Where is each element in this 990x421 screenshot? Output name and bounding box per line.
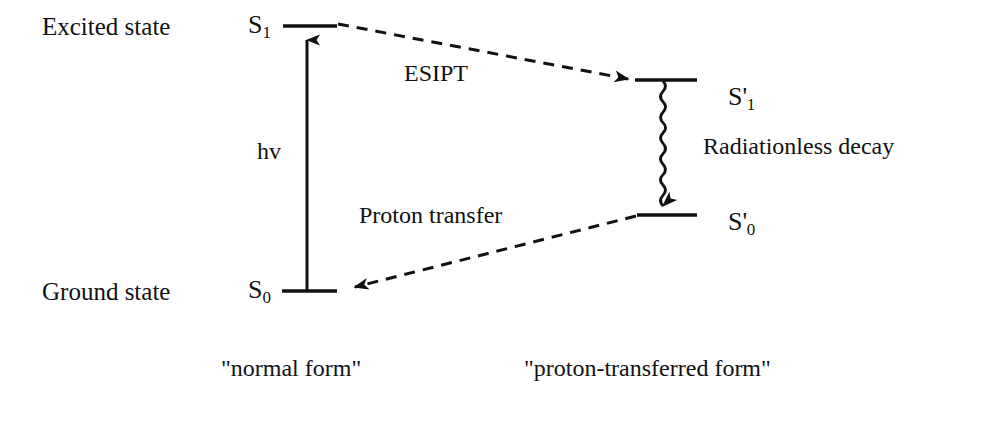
- state-symbol-s0-letter: S: [248, 275, 262, 304]
- state-symbol-s0-prime: S'0: [728, 209, 755, 238]
- ground-state-label: Ground state: [42, 279, 170, 304]
- radiationless-decay-wavy-arrow: [661, 81, 666, 206]
- state-symbol-s1: S1: [248, 12, 271, 41]
- state-symbol-s0: S0: [248, 277, 271, 306]
- absorption-label-hv: hv: [257, 139, 281, 163]
- state-symbol-s1-prime-subscript: 1: [747, 95, 756, 114]
- radiationless-decay-label: Radiationless decay: [703, 134, 894, 158]
- esipt-label: ESIPT: [404, 61, 468, 85]
- proton-transfer-label: Proton transfer: [359, 203, 502, 227]
- esipt-dashed-arrow: [338, 24, 628, 79]
- excited-state-label: Excited state: [42, 14, 170, 39]
- state-symbol-s0-prime-subscript: 0: [747, 220, 756, 239]
- state-symbol-s0-subscript: 0: [262, 288, 271, 307]
- state-symbol-s1-prime-letter: S: [728, 82, 742, 111]
- normal-form-caption: "normal form": [221, 356, 361, 380]
- state-symbol-s1-letter: S: [248, 10, 262, 39]
- proton-transferred-form-caption: "proton-transferred form": [524, 356, 771, 380]
- state-symbol-s1-prime: S'1: [728, 84, 755, 113]
- state-symbol-s0-prime-letter: S: [728, 207, 742, 236]
- state-symbol-s1-subscript: 1: [262, 23, 271, 42]
- esipt-energy-level-diagram: Excited state Ground state S1 S0 S'1 S'0…: [0, 0, 990, 421]
